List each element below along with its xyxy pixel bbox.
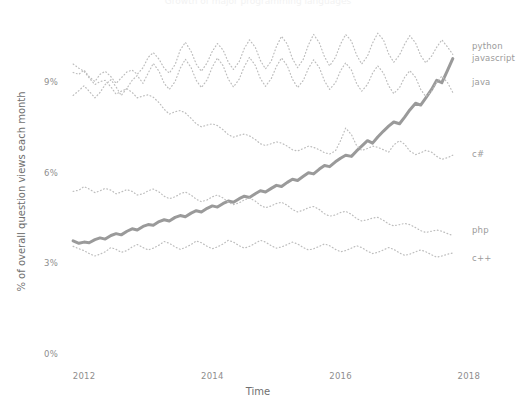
series-line-php <box>73 187 453 236</box>
series-line-java <box>73 57 453 97</box>
y-axis-tick-label: 3% <box>24 258 58 268</box>
x-axis-tick-label: 2018 <box>444 371 494 381</box>
y-axis-tick-label: 9% <box>24 77 58 87</box>
y-axis-title: % of overall question views each month <box>16 77 27 307</box>
x-axis-tick-label: 2016 <box>316 371 366 381</box>
series-label-c-: c++ <box>472 253 491 263</box>
series-line-python <box>73 59 453 244</box>
x-axis-tick-label: 2012 <box>59 371 109 381</box>
series-label-c-: c# <box>472 149 484 159</box>
y-axis-tick-label: 0% <box>24 349 58 359</box>
series-line-javascript <box>73 33 453 83</box>
chart-plot-area <box>0 0 516 409</box>
series-label-javascript: javascript <box>472 53 515 63</box>
y-axis-tick-label: 6% <box>24 168 58 178</box>
series-label-python: python <box>472 41 503 51</box>
series-line-c- <box>73 240 453 257</box>
chart-container: Growth of major programming languages % … <box>0 0 516 409</box>
x-axis-tick-label: 2014 <box>187 371 237 381</box>
series-line-c- <box>73 64 453 159</box>
series-label-php: php <box>472 225 489 235</box>
x-axis-title: Time <box>0 386 516 397</box>
series-label-java: java <box>472 77 490 87</box>
